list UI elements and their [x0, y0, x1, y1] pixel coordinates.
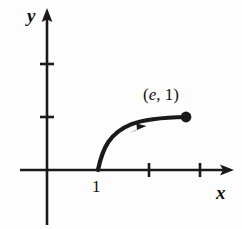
- plot-canvas: [0, 0, 242, 229]
- point-label-sep: ,: [156, 85, 165, 104]
- point-label: (e, 1): [143, 86, 179, 103]
- point-label-close: ): [173, 85, 179, 104]
- log-curve-figure: y x 1 (e, 1): [0, 0, 242, 229]
- x-axis-label: x: [216, 183, 226, 202]
- endpoint-dot: [181, 112, 192, 123]
- y-axis-label: y: [27, 6, 35, 25]
- x-tick-label-1: 1: [92, 178, 101, 195]
- point-label-y: 1: [165, 85, 174, 104]
